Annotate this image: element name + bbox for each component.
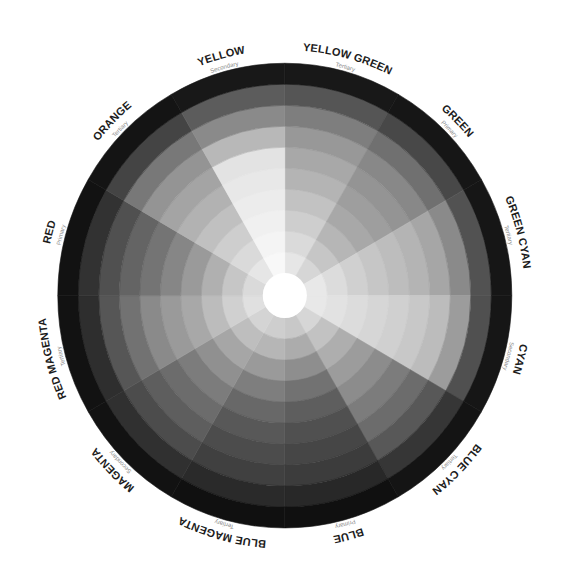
sector-name-label-text: YELLOW — [196, 43, 246, 68]
color-wheel-diagram: YELLOW GREENTertiaryGREENPrimaryGREEN CY… — [0, 0, 573, 583]
color-wheel: YELLOW GREENTertiaryGREENPrimaryGREEN CY… — [0, 0, 573, 583]
sector-name-label: YELLOW — [196, 43, 246, 68]
sector-label-blue: BLUEPrimary — [332, 519, 365, 546]
sector-name-label-text: RED — [40, 219, 58, 245]
wheel-center-hub — [263, 273, 307, 318]
sector-name-label: RED — [40, 219, 58, 245]
sector-label-red: REDPrimary — [40, 219, 66, 246]
